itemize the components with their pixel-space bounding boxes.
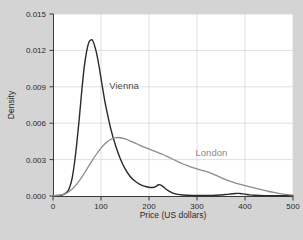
y-tick-label: 0.006 — [26, 119, 47, 128]
y-tick-label: 0.000 — [26, 192, 47, 201]
series-label-vienna: Vienna — [109, 80, 139, 91]
chart-svg: 0.0000.0030.0060.0090.0120.015 010020030… — [0, 0, 303, 240]
x-tick-label: 500 — [286, 202, 300, 211]
x-tick-label: 400 — [238, 202, 252, 211]
y-axis-title: Density — [6, 90, 16, 119]
y-tick-label: 0.012 — [26, 46, 47, 55]
y-tick-label: 0.009 — [26, 83, 47, 92]
density-plot-figure: 0.0000.0030.0060.0090.0120.015 010020030… — [0, 0, 303, 240]
series-label-london: London — [196, 147, 228, 158]
y-tick-label: 0.015 — [26, 10, 47, 19]
x-tick-label: 0 — [51, 202, 56, 211]
x-axis-title: Price (US dollars) — [140, 210, 207, 220]
y-tick-label: 0.003 — [26, 156, 47, 165]
x-tick-label: 100 — [94, 202, 108, 211]
